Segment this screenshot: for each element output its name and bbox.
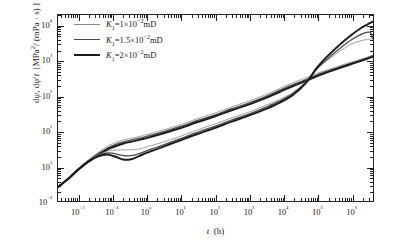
- x-tick-top: [318, 15, 319, 21]
- x-tick: [103, 198, 104, 201]
- y-tick: [58, 27, 61, 28]
- curve-pressure: [58, 56, 373, 187]
- x-tick: [89, 198, 90, 201]
- x-tick-top: [339, 15, 340, 18]
- y-tick: [58, 132, 64, 133]
- x-tick: [311, 198, 312, 201]
- y-tick: [58, 75, 61, 76]
- x-tick-top: [157, 15, 158, 18]
- y-tick-right: [370, 186, 373, 187]
- x-tick-label: 10⁵: [312, 208, 323, 217]
- y-tick: [58, 134, 61, 135]
- x-tick: [266, 198, 267, 201]
- y-tick-right: [370, 63, 373, 64]
- x-tick: [226, 198, 227, 201]
- x-tick-top: [277, 15, 278, 18]
- y-tick: [58, 115, 61, 116]
- x-tick-top: [208, 15, 209, 18]
- x-tick: [277, 198, 278, 201]
- y-tick-label: 10³: [22, 56, 52, 65]
- x-tick: [250, 195, 251, 201]
- x-tick-top: [279, 15, 280, 18]
- y-tick: [58, 72, 61, 73]
- y-tick: [58, 51, 61, 52]
- y-tick-right: [367, 168, 373, 169]
- x-tick: [68, 198, 69, 201]
- y-tick: [58, 67, 61, 68]
- x-tick: [176, 198, 177, 201]
- x-tick: [353, 195, 354, 201]
- y-tick-right: [370, 69, 373, 70]
- y-tick: [58, 44, 61, 45]
- y-tick: [58, 111, 61, 112]
- y-tick: [58, 26, 64, 27]
- x-tick: [99, 198, 100, 201]
- y-tick-right: [370, 29, 373, 30]
- y-tick: [58, 182, 61, 183]
- y-tick-right: [370, 115, 373, 116]
- x-tick: [137, 198, 138, 201]
- y-tick-right: [370, 169, 373, 170]
- y-tick: [58, 192, 61, 193]
- y-tick-right: [367, 132, 373, 133]
- y-tick-right: [370, 178, 373, 179]
- x-tick: [95, 198, 96, 201]
- y-tick: [58, 40, 61, 41]
- y-tick-right: [370, 171, 373, 172]
- x-tick: [240, 198, 241, 201]
- y-tick-right: [370, 65, 373, 66]
- x-tick-top: [335, 15, 336, 18]
- legend-item-k1-2e-2: K1=2×10−2mD: [74, 51, 163, 60]
- x-tick: [313, 198, 314, 201]
- y-tick-right: [370, 134, 373, 135]
- x-tick: [232, 198, 233, 201]
- y-tick: [58, 171, 61, 172]
- y-tick-right: [367, 26, 373, 27]
- y-tick: [58, 36, 61, 37]
- x-tick-top: [164, 15, 165, 18]
- x-tick-top: [99, 15, 100, 18]
- x-tick-top: [95, 15, 96, 18]
- x-tick-top: [271, 15, 272, 18]
- x-tick-top: [226, 15, 227, 18]
- x-tick: [318, 195, 319, 201]
- y-tick-label: 10⁻¹: [22, 198, 52, 207]
- y-tick-right: [370, 31, 373, 32]
- x-tick: [363, 198, 364, 201]
- figure-container: K1=1×10−2mD K1=1.5×10−2mD K1=2×10−2mD t …: [0, 0, 396, 248]
- legend-item-k1-1p5e-2: K1=1.5×10−2mD: [74, 36, 163, 45]
- y-tick: [58, 143, 61, 144]
- x-tick-top: [192, 15, 193, 18]
- y-tick-label: 10⁰: [22, 162, 52, 171]
- x-tick-label: 10⁰: [141, 208, 152, 217]
- y-tick-right: [370, 44, 373, 45]
- y-tick-right: [370, 34, 373, 35]
- y-tick: [58, 98, 61, 99]
- y-tick-right: [370, 72, 373, 73]
- y-tick-right: [367, 61, 373, 62]
- x-tick-top: [174, 15, 175, 18]
- y-tick: [58, 136, 61, 137]
- x-tick: [129, 198, 130, 201]
- y-tick-right: [370, 100, 373, 101]
- y-tick-right: [370, 98, 373, 99]
- x-tick-top: [284, 15, 285, 21]
- x-tick-top: [65, 15, 66, 18]
- x-tick-top: [311, 15, 312, 18]
- x-tick-top: [274, 15, 275, 18]
- x-tick-top: [103, 15, 104, 18]
- y-tick-right: [370, 75, 373, 76]
- y-tick-right: [370, 136, 373, 137]
- x-tick-top: [134, 15, 135, 18]
- x-tick: [305, 198, 306, 201]
- x-tick: [373, 198, 374, 201]
- x-tick: [61, 198, 62, 201]
- x-tick-top: [176, 15, 177, 18]
- y-tick: [58, 29, 61, 30]
- x-tick-top: [313, 15, 314, 18]
- y-tick: [58, 151, 61, 152]
- y-tick: [58, 102, 61, 103]
- y-tick-right: [370, 138, 373, 139]
- y-tick: [58, 186, 61, 187]
- y-tick-right: [370, 80, 373, 81]
